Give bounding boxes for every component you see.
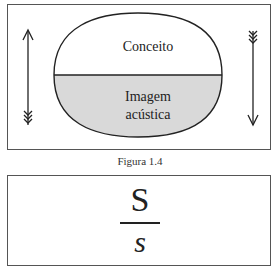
signifier-symbol: s xyxy=(8,224,272,260)
acoustic-image-label: Imagem acústica xyxy=(88,88,208,124)
down-arrow-icon xyxy=(248,31,258,125)
concept-label: Conceito xyxy=(98,39,198,55)
signified-symbol: S xyxy=(8,182,272,218)
figure-caption: Figura 1.4 xyxy=(0,155,280,167)
acoustic-image-label-line2: acústica xyxy=(88,106,208,124)
up-arrow-icon xyxy=(23,30,33,125)
sign-ellipse-diagram xyxy=(8,5,272,151)
sign-formula-frame: S s xyxy=(7,175,271,266)
figure-diagram-frame: Conceito Imagem acústica xyxy=(7,4,271,150)
acoustic-image-label-line1: Imagem xyxy=(88,88,208,106)
